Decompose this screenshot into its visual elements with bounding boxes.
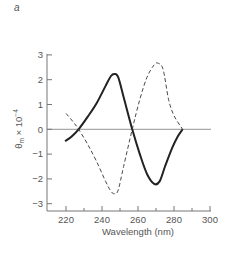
y-tick-label: −3 — [32, 198, 43, 209]
y-tick-label: 1 — [38, 99, 43, 110]
x-tick-label: 280 — [166, 214, 182, 225]
cd-spectrum-chart: 3210−1−2−3220240260280300 Wavelength (nm… — [0, 0, 232, 255]
y-tick-label: −2 — [32, 173, 43, 184]
series-group — [65, 63, 183, 194]
y-tick-label: 2 — [38, 74, 43, 85]
axes: 3210−1−2−3220240260280300 — [32, 49, 218, 225]
x-axis-title: Wavelength (nm) — [102, 226, 174, 237]
y-tick-label: −1 — [32, 148, 43, 159]
x-tick-label: 260 — [130, 214, 146, 225]
x-tick-label: 240 — [94, 214, 110, 225]
dashed-curve — [66, 63, 183, 194]
y-tick-label: 0 — [38, 124, 43, 135]
y-axis-title: θm × 10−4 — [12, 109, 25, 149]
x-tick-label: 220 — [58, 214, 74, 225]
y-tick-label: 3 — [38, 49, 43, 60]
x-tick-label: 300 — [202, 214, 218, 225]
